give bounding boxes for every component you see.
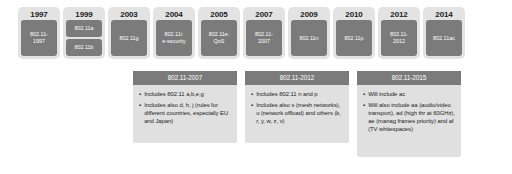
standard-line: 802.11b: [74, 44, 93, 51]
standard-line: 802.11n: [299, 35, 318, 42]
bullet-dot-icon: ▪: [139, 90, 141, 98]
year-card-1999: 1999802.11a802.11b: [63, 7, 105, 59]
standard-line: 802.11ac: [433, 35, 455, 42]
year-card-2003: 2003802.11g: [108, 7, 150, 59]
standard-line: 802.11-: [255, 31, 273, 38]
bullet-text: Includes 802.11 n and p: [256, 90, 317, 98]
year-label: 2005: [210, 9, 227, 20]
standard-line: QoS: [214, 38, 225, 45]
standard-stack: 802.11-2007: [246, 20, 282, 56]
year-label: 2004: [165, 9, 182, 20]
standard-line: 802.11-: [390, 31, 408, 38]
release-panels: 802.11-2007▪Includes 802.11 a,b,e,g▪Incl…: [133, 71, 461, 157]
standard-box: 802.11-2012: [381, 20, 417, 56]
bullet-text: Will also include aa (audio/video transp…: [368, 101, 456, 133]
year-label: 2003: [120, 9, 137, 20]
standard-stack: 802.11ac: [426, 20, 462, 56]
standard-stack: 802.11g: [111, 20, 147, 56]
panel-header: 802.11-2015: [357, 71, 461, 85]
bullet-text: Includes also d, h, j (rules for differe…: [144, 101, 232, 125]
panel-header: 802.11-2007: [133, 71, 237, 85]
standard-box: 802.11p: [336, 20, 372, 56]
year-card-2009: 2009802.11n: [288, 7, 330, 59]
standard-stack: 802.11i:e-security: [156, 20, 192, 56]
standard-box: 802.11e:QoS: [201, 20, 237, 56]
standard-stack: 802.11e:QoS: [201, 20, 237, 56]
standard-line: 802.11-: [30, 31, 48, 38]
standard-line: 2007: [258, 38, 270, 45]
bullet-text: Includes also s (mesh networks), u (netw…: [256, 101, 344, 125]
standard-stack: 802.11-1997: [21, 20, 57, 56]
standard-line: e-security: [162, 38, 185, 45]
year-label: 1999: [75, 9, 92, 20]
year-card-1997: 1997802.11-1997: [18, 7, 60, 59]
bullet-item: ▪Includes also s (mesh networks), u (net…: [251, 101, 344, 125]
year-label: 1997: [30, 9, 47, 20]
standard-line: 2012: [393, 38, 405, 45]
year-card-2014: 2014802.11ac: [423, 7, 465, 59]
standard-stack: 802.11n: [291, 20, 327, 56]
year-label: 2012: [390, 9, 407, 20]
bullet-dot-icon: ▪: [251, 90, 253, 98]
standard-stack: 802.11p: [336, 20, 372, 56]
standard-box: 802.11-1997: [21, 20, 57, 56]
panel-body: ▪Includes 802.11 a,b,e,g▪Includes also d…: [133, 85, 237, 133]
release-panel-802.11-2007: 802.11-2007▪Includes 802.11 a,b,e,g▪Incl…: [133, 71, 237, 143]
bullet-item: ▪Includes 802.11 a,b,e,g: [139, 90, 232, 98]
year-label: 2014: [435, 9, 452, 20]
bullet-item: ▪Includes 802.11 n and p: [251, 90, 344, 98]
standard-box: 802.11-2007: [246, 20, 282, 56]
standard-line: 802.11p: [344, 35, 363, 42]
bullet-item: ▪Will also include aa (audio/video trans…: [363, 101, 456, 133]
year-label: 2009: [300, 9, 317, 20]
bullet-text: Will include ac: [368, 90, 405, 98]
bullet-dot-icon: ▪: [251, 101, 253, 125]
bullet-item: ▪Will include ac: [363, 90, 456, 98]
standard-box: 802.11i:e-security: [156, 20, 192, 56]
release-panel-802.11-2012: 802.11-2012▪Includes 802.11 n and p▪Incl…: [245, 71, 349, 143]
standard-line: 1997: [33, 38, 45, 45]
bullet-dot-icon: ▪: [363, 90, 365, 98]
bullet-dot-icon: ▪: [363, 101, 365, 133]
standard-stack: 802.11-2012: [381, 20, 417, 56]
standard-stack: 802.11a802.11b: [66, 20, 102, 56]
standard-line: 802.11g: [119, 35, 138, 42]
standard-line: 802.11i:: [165, 31, 184, 38]
year-card-2004: 2004802.11i:e-security: [153, 7, 195, 59]
panel-body: ▪Includes 802.11 n and p▪Includes also s…: [245, 85, 349, 133]
bullet-text: Includes 802.11 a,b,e,g: [144, 90, 204, 98]
year-card-2007: 2007802.11-2007: [243, 7, 285, 59]
standard-line: 802.11e:: [209, 31, 230, 38]
standard-box: 802.11ac: [426, 20, 462, 56]
panel-body: ▪Will include ac▪Will also include aa (a…: [357, 85, 461, 141]
standards-timeline: 1997802.11-19971999802.11a802.11b2003802…: [18, 7, 465, 59]
release-panel-802.11-2015: 802.11-2015▪Will include ac▪Will also in…: [357, 71, 461, 157]
year-card-2010: 2010802.11p: [333, 7, 375, 59]
panel-header: 802.11-2012: [245, 71, 349, 85]
year-label: 2007: [255, 9, 272, 20]
standard-box: 802.11b: [66, 39, 102, 56]
bullet-dot-icon: ▪: [139, 101, 141, 125]
standard-box: 802.11n: [291, 20, 327, 56]
standard-box: 802.11a: [66, 20, 102, 37]
bullet-item: ▪Includes also d, h, j (rules for differ…: [139, 101, 232, 125]
standard-line: 802.11a: [74, 25, 93, 32]
year-label: 2010: [345, 9, 362, 20]
year-card-2005: 2005802.11e:QoS: [198, 7, 240, 59]
year-card-2012: 2012802.11-2012: [378, 7, 420, 59]
standard-box: 802.11g: [111, 20, 147, 56]
